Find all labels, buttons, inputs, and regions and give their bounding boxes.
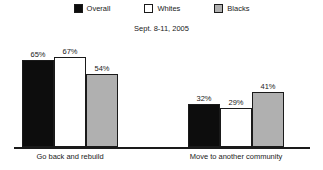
category-label-1: Move to another community — [190, 152, 283, 161]
bar-overall-g0: 65% — [22, 60, 54, 147]
bar-value-label: 65% — [30, 50, 45, 59]
bar-blacks-g0: 54% — [86, 74, 118, 147]
x-axis-line — [14, 147, 310, 149]
category-label-0: Go back and rebuild — [36, 152, 103, 161]
bar-blacks-g1: 41% — [252, 92, 284, 147]
bar-chart: Overall Whites Blacks Sept. 8-11, 2005 6… — [0, 0, 323, 170]
bar-overall-g1: 32% — [188, 104, 220, 147]
bar-whites-g1: 29% — [220, 108, 252, 147]
bar-whites-g0: 67% — [54, 57, 86, 147]
bar-value-label: 54% — [94, 64, 109, 73]
plot-area: 65% 67% 54% 32% 29% 41% Go back and rebu… — [0, 0, 323, 170]
bar-value-label: 29% — [228, 98, 243, 107]
bar-value-label: 67% — [62, 47, 77, 56]
bar-value-label: 41% — [260, 82, 275, 91]
bar-value-label: 32% — [196, 94, 211, 103]
